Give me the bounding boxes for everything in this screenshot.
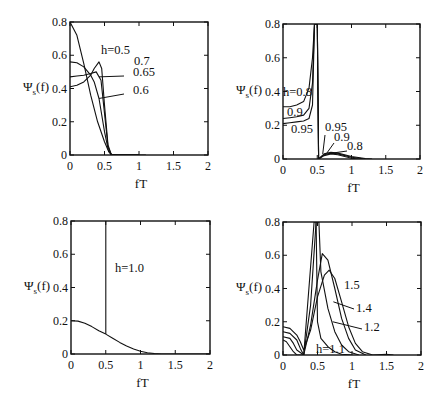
x-tick-label: 0.5 xyxy=(310,359,325,373)
y-tick-label: 0.4 xyxy=(265,282,280,296)
y-tick-label: 0 xyxy=(274,348,280,362)
x-tick-label: 1.5 xyxy=(166,159,181,173)
series-h-1.0 xyxy=(71,321,210,354)
y-tick-label: 0.2 xyxy=(53,314,68,328)
plot-frame xyxy=(71,221,210,354)
y-tick-label: 0.4 xyxy=(52,82,67,96)
y-tick-label: 0.4 xyxy=(265,85,280,99)
x-axis-label: fT xyxy=(347,180,359,195)
y-tick-label: 0 xyxy=(274,152,280,166)
curve-annotation: h=1.1 xyxy=(316,342,345,356)
curve-annotation: h=0.5 xyxy=(101,43,130,57)
curve-annotation: 1.4 xyxy=(356,301,372,315)
annotation-leader xyxy=(332,151,347,153)
series-h-0.5 xyxy=(70,22,139,155)
curve-annotation: 0.9 xyxy=(287,105,303,119)
y-tick-label: 0.8 xyxy=(53,214,68,228)
y-axis-label: Ψs(f) xyxy=(24,278,50,296)
y-tick-label: 0 xyxy=(61,148,67,162)
annotation-leader xyxy=(323,135,325,154)
curve-annotation: h=0.8 xyxy=(283,85,312,99)
x-tick-label: 2 xyxy=(205,159,211,173)
x-tick-label: 1 xyxy=(136,159,142,173)
annotation-leader xyxy=(327,143,334,153)
curve-annotation: 0.8 xyxy=(347,139,363,153)
curve-annotation: h=1.0 xyxy=(115,261,144,275)
x-tick-label: 2 xyxy=(417,163,423,177)
y-tick-label: 0.8 xyxy=(52,15,67,29)
y-tick-label: 0 xyxy=(62,347,68,361)
y-tick-label: 0.6 xyxy=(53,247,68,261)
y-tick-label: 0.2 xyxy=(265,118,280,132)
y-tick-label: 0.4 xyxy=(53,281,68,295)
series-h-1.1 xyxy=(283,222,352,355)
curve-annotation: 0.65 xyxy=(133,65,155,79)
x-tick-label: 0.5 xyxy=(98,358,113,372)
curve-annotation: 0.95 xyxy=(291,122,313,136)
x-tick-label: 0.5 xyxy=(310,163,325,177)
x-tick-label: 0.5 xyxy=(97,159,112,173)
x-tick-label: 1 xyxy=(349,163,355,177)
x-axis-label: fT xyxy=(348,376,360,391)
chart-panel-bottom-left: 00.511.5200.20.40.60.8fTΨs(f)h=1.0 xyxy=(24,214,213,390)
x-tick-label: 0 xyxy=(67,159,73,173)
x-tick-label: 2 xyxy=(418,359,424,373)
y-tick-label: 0.6 xyxy=(52,48,67,62)
curve-annotation: 1.2 xyxy=(364,320,380,334)
y-axis-label: Ψs(f) xyxy=(23,79,49,97)
x-tick-label: 0 xyxy=(280,359,286,373)
y-axis-label: Ψs(f) xyxy=(236,82,262,100)
x-tick-label: 1 xyxy=(138,358,144,372)
x-tick-label: 1.5 xyxy=(168,358,183,372)
y-axis-label: Ψs(f) xyxy=(236,279,262,297)
y-tick-label: 0.6 xyxy=(265,51,280,65)
y-tick-label: 0.8 xyxy=(265,215,280,229)
y-tick-label: 0.2 xyxy=(265,315,280,329)
x-axis-label: fT xyxy=(135,176,147,191)
x-tick-label: 1 xyxy=(349,359,355,373)
x-tick-label: 1.5 xyxy=(379,359,394,373)
chart-panel-top-left: 00.511.5200.20.40.60.8fTΨs(f)h=0.50.70.6… xyxy=(23,15,211,191)
chart-panel-bottom-right: 00.511.5200.20.40.60.8fTΨs(f)1.51.41.2h=… xyxy=(236,215,424,391)
x-axis-label: fT xyxy=(136,375,148,390)
y-tick-label: 0.8 xyxy=(265,17,280,31)
x-tick-label: 1.5 xyxy=(378,163,393,177)
curve-annotation: 0.6 xyxy=(133,83,149,97)
x-tick-label: 2 xyxy=(207,358,213,372)
figure-canvas: 00.511.5200.20.40.60.8fTΨs(f)h=0.50.70.6… xyxy=(0,0,446,404)
x-tick-label: 0 xyxy=(68,358,74,372)
y-tick-label: 0.2 xyxy=(52,115,67,129)
x-tick-label: 0 xyxy=(280,163,286,177)
chart-panel-top-right: 00.511.5200.20.40.60.8fTΨs(f)h=0.80.90.9… xyxy=(236,17,423,195)
curve-annotation: 1.5 xyxy=(344,278,360,292)
y-tick-label: 0.6 xyxy=(265,248,280,262)
